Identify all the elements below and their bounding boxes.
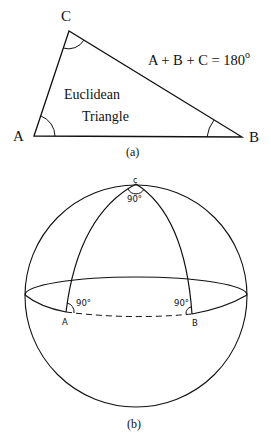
euclidean-triangle — [34, 31, 242, 137]
angle-arc-a — [41, 116, 55, 136]
equator-front-right — [192, 295, 247, 314]
meridian-cb — [136, 184, 192, 314]
angle-label-a: 90° — [76, 298, 91, 308]
triangle-label-line1: Euclidean — [64, 87, 120, 102]
vertex-label-c-sphere: c — [133, 176, 137, 185]
sphere-outline — [25, 185, 247, 407]
caption-b: (b) — [127, 417, 141, 431]
vertex-label-b: B — [249, 129, 259, 145]
angle-arc-a-sphere — [67, 303, 74, 313]
euclidean-triangle-figure: C A B Euclidean Triangle A + B + C = 180… — [13, 8, 259, 159]
meridian-ca — [66, 184, 136, 312]
triangle-label-line2: Triangle — [82, 109, 129, 124]
angle-arc-b-sphere — [186, 307, 191, 314]
figure-canvas: C A B Euclidean Triangle A + B + C = 180… — [0, 0, 271, 439]
spherical-triangle-figure: c 90° 90° 90° A B (b) — [25, 176, 247, 431]
equator-back — [25, 277, 247, 295]
vertex-label-a-sphere: A — [62, 317, 68, 327]
caption-a: (a) — [126, 145, 139, 159]
equator-dashed-arc — [66, 312, 192, 317]
angle-label-c: 90° — [127, 194, 142, 204]
vertex-label-b-sphere: B — [192, 318, 198, 328]
vertex-label-a: A — [13, 128, 24, 144]
vertex-label-c: C — [61, 8, 71, 24]
angle-label-b: 90° — [174, 298, 189, 308]
equator-front-left — [25, 295, 66, 312]
angle-sum-equation: A + B + C = 180o — [148, 49, 250, 68]
angle-arc-b — [207, 120, 214, 137]
